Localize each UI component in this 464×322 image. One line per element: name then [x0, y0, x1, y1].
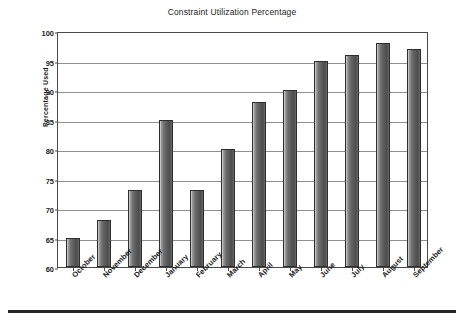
- bar: [97, 220, 111, 267]
- y-tick-label: 75: [46, 176, 54, 185]
- gridline: [58, 210, 427, 211]
- y-tick-mark: [55, 210, 58, 211]
- gridline: [58, 240, 427, 241]
- y-tick-label: 65: [46, 235, 54, 244]
- bar: [66, 238, 80, 268]
- bar: [407, 49, 421, 267]
- y-tick-mark: [55, 269, 58, 270]
- y-tick-label: 85: [46, 117, 54, 126]
- y-tick-mark: [55, 151, 58, 152]
- bar: [345, 55, 359, 267]
- chart-title: Constraint Utilization Percentage: [0, 7, 464, 17]
- bar: [221, 149, 235, 267]
- bar: [190, 190, 204, 267]
- bar: [252, 102, 266, 267]
- y-tick-label: 95: [46, 58, 54, 67]
- gridline: [58, 92, 427, 93]
- y-tick-mark: [55, 180, 58, 181]
- y-tick-mark: [55, 121, 58, 122]
- gridline: [58, 63, 427, 64]
- y-tick-mark: [55, 239, 58, 240]
- bar: [314, 61, 328, 268]
- y-tick-mark: [55, 62, 58, 63]
- y-tick-label: 100: [41, 29, 54, 38]
- y-tick-mark: [55, 92, 58, 93]
- bottom-divider: [8, 310, 456, 313]
- y-tick-label: 60: [46, 265, 54, 274]
- gridline: [58, 122, 427, 123]
- chart-figure: Constraint Utilization Percentage Percen…: [0, 0, 464, 322]
- bar: [376, 43, 390, 267]
- y-tick-label: 90: [46, 88, 54, 97]
- plot-area: Percentage Used 6065707580859095100 Octo…: [57, 32, 428, 268]
- y-tick-label: 80: [46, 147, 54, 156]
- bar: [159, 120, 173, 268]
- gridline: [58, 181, 427, 182]
- y-tick-label: 70: [46, 206, 54, 215]
- y-tick-mark: [55, 33, 58, 34]
- gridline: [58, 151, 427, 152]
- bar: [283, 90, 297, 267]
